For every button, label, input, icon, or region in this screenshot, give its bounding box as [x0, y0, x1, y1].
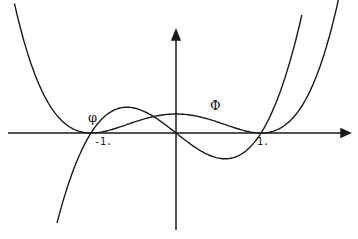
curve-label-Phi: Φ [210, 98, 221, 113]
axes [8, 30, 350, 230]
y-axis-arrow-icon [172, 30, 180, 40]
curve-Phi-quartic [15, 0, 340, 133]
x-tick-label-pos1: 1. [257, 136, 269, 147]
x-tick-label-neg1: -1. [94, 136, 112, 147]
curve-label-phi: φ [88, 110, 97, 125]
x-axis-arrow-icon [341, 129, 350, 137]
function-plot [0, 0, 358, 239]
